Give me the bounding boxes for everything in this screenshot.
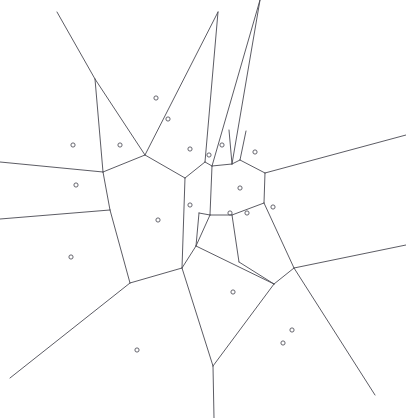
voronoi-canvas (0, 0, 406, 418)
voronoi-diagram-figure (0, 0, 406, 418)
figure-background (0, 0, 406, 418)
